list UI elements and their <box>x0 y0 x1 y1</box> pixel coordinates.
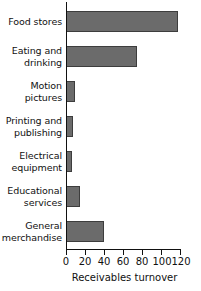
bar-row: Educational services <box>0 179 201 214</box>
x-tick-100 <box>161 250 162 255</box>
x-axis-title: Receivables turnover <box>0 272 201 284</box>
x-tick-label: 40 <box>98 256 111 268</box>
category-label: Motion pictures <box>0 74 62 109</box>
x-tick-label: 60 <box>117 256 130 268</box>
x-tick-20 <box>85 250 86 255</box>
y-axis-line <box>66 2 67 249</box>
x-tick-label: 80 <box>136 256 149 268</box>
x-tick-40 <box>104 250 105 255</box>
category-label: Food stores <box>0 4 62 39</box>
x-tick-label: 20 <box>79 256 92 268</box>
x-tick-120 <box>180 250 181 255</box>
bar-row: General merchandise <box>0 214 201 249</box>
bar-row: Motion pictures <box>0 74 201 109</box>
category-label: General merchandise <box>0 214 62 249</box>
plot-area: Food stores Eating and drinking Motion p… <box>0 0 201 250</box>
bar-row: Printing and publishing <box>0 109 201 144</box>
x-tick-0 <box>66 250 67 255</box>
x-tick-60 <box>123 250 124 255</box>
x-tick-label: 120 <box>171 256 190 268</box>
bar-row: Eating and drinking <box>0 39 201 74</box>
bar-general-merchandise <box>66 221 104 242</box>
category-label: Educational services <box>0 179 62 214</box>
bar-row: Food stores <box>0 4 201 39</box>
category-label: Printing and publishing <box>0 109 62 144</box>
x-tick-80 <box>142 250 143 255</box>
bar-eating-and-drinking <box>66 46 137 67</box>
bar-chart: Food stores Eating and drinking Motion p… <box>0 0 201 291</box>
bar-educational-services <box>66 186 80 207</box>
x-tick-label: 100 <box>152 256 171 268</box>
category-label: Electrical equipment <box>0 144 62 179</box>
category-label: Eating and drinking <box>0 39 62 74</box>
bar-motion-pictures <box>66 81 75 102</box>
bar-row: Electrical equipment <box>0 144 201 179</box>
bar-printing-and-publishing <box>66 116 73 137</box>
bar-food-stores <box>66 11 178 32</box>
x-tick-label: 0 <box>63 256 69 268</box>
